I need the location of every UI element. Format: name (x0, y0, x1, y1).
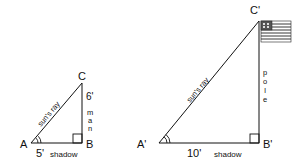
large-base-length: 10' (187, 147, 201, 159)
small-height-label: man (86, 108, 95, 132)
small-base-label: shadow (50, 150, 78, 159)
large-base-label: shadow (214, 150, 242, 159)
large-triangle: A' B' C' 10' shadow pole sun's ray (137, 4, 291, 159)
flag-icon (261, 21, 291, 42)
small-hypotenuse-label: sun's ray (36, 99, 62, 128)
small-triangle: A B C 5' shadow 6' man sun's ray (20, 70, 95, 159)
vertex-c-label: C (78, 70, 86, 82)
large-hypotenuse-label: sun's ray (185, 75, 211, 104)
similar-triangles-diagram: A B C 5' shadow 6' man sun's ray A' (0, 0, 301, 165)
vertex-c-prime-label: C' (250, 4, 260, 16)
right-angle-marker (250, 134, 259, 143)
small-base-length: 5' (36, 147, 44, 159)
vertex-a-prime-label: A' (137, 138, 146, 150)
large-height-label: pole (261, 68, 270, 104)
angle-arc-inner (164, 137, 167, 143)
angle-arc-inner (36, 138, 38, 143)
angle-arc-outer (38, 136, 41, 143)
vertex-b-label: B (86, 138, 93, 150)
small-height-length: 6' (86, 91, 94, 102)
vertex-b-prime-label: B' (263, 138, 272, 150)
right-angle-marker (73, 134, 82, 143)
vertex-a-label: A (20, 138, 28, 150)
